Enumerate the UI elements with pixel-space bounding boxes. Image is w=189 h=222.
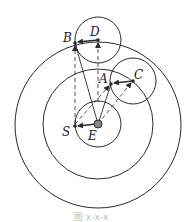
point-a <box>109 82 113 86</box>
label-e: E <box>87 129 97 143</box>
point-b <box>73 41 77 45</box>
figure-caption: 图 x-x-x <box>74 212 109 222</box>
arrow-e-s <box>78 124 96 126</box>
earth-e <box>94 120 102 128</box>
label-a: A <box>98 72 108 86</box>
orbit-diagram: B D A C S E 图 x-x-x <box>0 0 189 222</box>
label-c: C <box>134 68 143 82</box>
label-s: S <box>62 125 70 139</box>
label-d: D <box>89 25 100 39</box>
arrow-c-a <box>114 81 133 83</box>
point-s <box>73 124 77 128</box>
dashed-e-c <box>98 83 131 124</box>
label-b: B <box>62 31 72 45</box>
